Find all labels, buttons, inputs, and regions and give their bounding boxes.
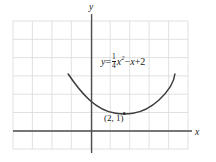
- parabola-figure: y=14x2−x+2 (2, 1) x y: [0, 0, 216, 162]
- equation-label: y=14x2−x+2: [101, 53, 145, 69]
- graph-canvas: [0, 0, 216, 162]
- equation-constant: 2: [140, 56, 145, 67]
- y-axis-label: y: [89, 3, 93, 13]
- vertex-coordinate-label: (2, 1): [104, 114, 124, 123]
- fraction-denominator: 4: [112, 62, 117, 70]
- equation-equals: =: [105, 56, 111, 67]
- axes: [13, 14, 192, 153]
- coefficient-fraction: 14: [112, 53, 117, 69]
- x-axis-label: x: [195, 128, 199, 138]
- grid-lines: [13, 21, 188, 149]
